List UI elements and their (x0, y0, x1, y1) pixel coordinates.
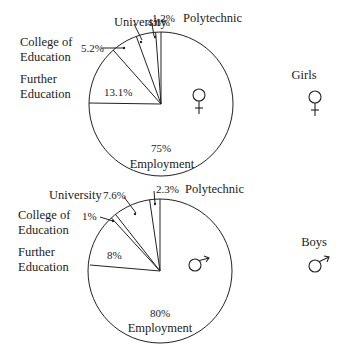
girls-further-value: 13.1% (104, 86, 132, 98)
girls-employment-label: Employment (130, 157, 195, 171)
girls-employment-value: 75% (151, 142, 171, 154)
girls-title: Girls (292, 68, 317, 82)
boys-poly-leader (154, 191, 155, 203)
boys-university-value: 7.6% (103, 189, 126, 201)
boys-employment-label: Employment (128, 321, 193, 335)
boys-further-value: 8% (107, 249, 122, 261)
girls-college-value: 5.2% (81, 42, 104, 54)
boys-further-label-2: Education (18, 260, 69, 274)
girls-divider-uni (136, 36, 161, 104)
boys-further-label-1: Further (18, 245, 56, 259)
boys-polytechnic-value: 2.3% (156, 183, 179, 195)
girls-polytechnic-value: 1.2% (152, 12, 175, 24)
girls-further-label-1: Further (20, 72, 58, 86)
girls-further-label-2: Education (20, 87, 71, 101)
boys-college-value: 1% (82, 210, 97, 222)
female-symbol-icon (193, 89, 205, 114)
male-symbol-legend-icon (309, 256, 329, 272)
female-symbol-legend-icon (309, 91, 321, 116)
male-symbol-icon (189, 256, 209, 271)
girls-polytechnic-label: Polytechnic (183, 11, 242, 25)
pie-charts: University 4.6% 1.2% Polytechnic College… (0, 0, 347, 362)
girls-divider-poly (156, 32, 161, 104)
boys-title: Boys (301, 235, 327, 249)
boys-divider-college (111, 218, 160, 271)
girls-college-label-1: College of (20, 35, 73, 49)
girls-divider-further (89, 103, 161, 104)
boys-college-label-1: College of (18, 208, 71, 222)
boys-university-label: University (49, 188, 103, 202)
boys-polytechnic-label: Polytechnic (185, 182, 244, 196)
boys-divider-further (90, 265, 160, 271)
boys-college-label-2: Education (18, 223, 69, 237)
girls-leader-dots (123, 36, 156, 49)
boys-employment-value: 80% (150, 307, 170, 319)
girls-college-label-2: Education (20, 50, 71, 64)
